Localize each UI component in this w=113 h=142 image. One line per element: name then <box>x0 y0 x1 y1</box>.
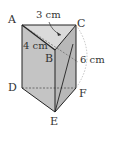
vertex-label-d: D <box>8 81 17 94</box>
measure-label-ab: 4 cm <box>23 40 48 51</box>
measure-label-ac: 3 cm <box>36 9 61 20</box>
measure-label-cf: 6 cm <box>80 54 105 65</box>
prism-diagram: A C B D F E 3 cm 4 cm 6 cm <box>0 0 113 142</box>
vertex-label-a: A <box>7 13 17 26</box>
vertex-label-e: E <box>50 115 58 128</box>
vertex-label-c: C <box>77 17 85 30</box>
vertex-label-f: F <box>79 87 87 100</box>
vertex-label-b: B <box>45 52 53 65</box>
